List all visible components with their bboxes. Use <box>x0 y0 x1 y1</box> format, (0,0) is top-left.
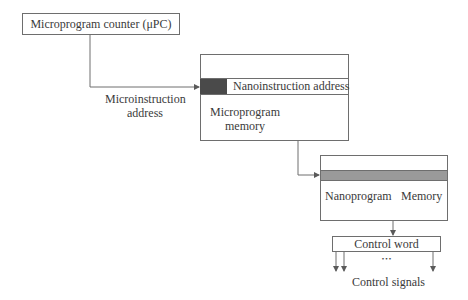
microprogram-memory-box: Nanoinstruction address Microprogram mem… <box>200 54 349 141</box>
control-word-ellipsis: ••• <box>372 252 402 266</box>
control-word-label: Control word <box>333 237 440 251</box>
control-word-box: Control word <box>332 236 441 252</box>
microprogram-memory-line1: Microprogram <box>205 105 285 119</box>
nanoprogram-label: Nanoprogram <box>325 189 392 203</box>
microprogram-memory-label: Microprogram memory <box>205 105 285 133</box>
gray-band <box>321 170 447 181</box>
nanoinstruction-address-label: Nanoinstruction address <box>233 79 349 93</box>
microinstruction-address-line2: address <box>105 106 185 120</box>
dark-field-segment <box>200 79 227 94</box>
memory-label: Memory <box>401 189 442 203</box>
nanoinstruction-address-field: Nanoinstruction address <box>200 78 349 95</box>
microprogram-counter-box: Microprogram counter (μPC) <box>22 13 180 35</box>
microinstruction-address-line1: Microinstruction <box>105 92 185 106</box>
microinstruction-address-label: Microinstruction address <box>105 92 185 120</box>
microprogram-memory-line2: memory <box>205 119 285 133</box>
control-signals-label: Control signals <box>352 275 425 289</box>
microprogram-counter-label: Microprogram counter (μPC) <box>23 17 179 31</box>
nanoprogram-memory-box: Nanoprogram Memory <box>320 155 448 221</box>
